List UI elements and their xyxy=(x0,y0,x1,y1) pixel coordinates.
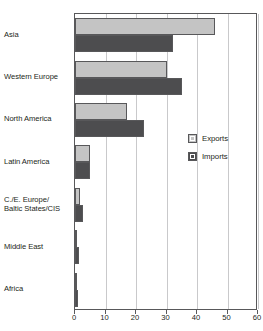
x-tick-label-30: 30 xyxy=(161,313,169,322)
bar-imports xyxy=(75,35,173,52)
x-tick-label-60: 60 xyxy=(253,313,261,322)
y-axis-label-line: Asia xyxy=(4,30,74,39)
x-tick-label-0: 0 xyxy=(72,313,76,322)
bar-group xyxy=(75,56,256,98)
bar-exports xyxy=(75,103,127,120)
bar-exports xyxy=(75,188,80,205)
bar-imports xyxy=(75,290,78,307)
x-tick-label-50: 50 xyxy=(222,313,230,322)
bar-exports xyxy=(75,273,77,290)
legend-label: Imports xyxy=(202,152,228,161)
y-axis-label-line: Africa xyxy=(4,284,74,293)
bar-imports xyxy=(75,205,83,222)
x-axis-tick-labels: 0102030405060 xyxy=(74,313,257,327)
x-tick-label-20: 20 xyxy=(131,313,139,322)
bar-exports xyxy=(75,145,90,162)
y-axis-category-labels: AsiaWestern EuropeNorth AmericaLatin Ame… xyxy=(4,13,72,310)
x-tick-label-40: 40 xyxy=(192,313,200,322)
y-axis-label-line: Latin America xyxy=(4,157,74,166)
y-axis-label: Asia xyxy=(4,30,74,39)
bar-imports xyxy=(75,162,90,179)
y-axis-label: North America xyxy=(4,114,74,123)
bar-imports xyxy=(75,78,182,95)
bar-chart: AsiaWestern EuropeNorth AmericaLatin Ame… xyxy=(0,0,263,331)
y-axis-label-line: North America xyxy=(4,114,74,123)
bar-group xyxy=(75,269,256,311)
legend-label: Exports xyxy=(202,134,228,143)
bar-exports xyxy=(75,230,77,247)
y-axis-label-line: Middle East xyxy=(4,242,74,251)
y-axis-label: C./E. Europe/Baltic States/CIS xyxy=(4,195,74,214)
bar-group xyxy=(75,184,256,226)
bar-group xyxy=(75,14,256,56)
y-axis-label: Middle East xyxy=(4,242,74,251)
legend-item-exports[interactable]: Exports xyxy=(188,131,254,146)
bar-imports xyxy=(75,120,144,137)
bar-exports xyxy=(75,18,215,35)
chart-legend: ExportsImports xyxy=(188,131,254,167)
y-axis-label: Western Europe xyxy=(4,72,74,81)
bar-group xyxy=(75,226,256,268)
legend-item-imports[interactable]: Imports xyxy=(188,149,254,164)
y-axis-label: Africa xyxy=(4,284,74,293)
plot-area: ExportsImports xyxy=(74,13,257,310)
x-tick-label-10: 10 xyxy=(100,313,108,322)
y-axis-label: Latin America xyxy=(4,157,74,166)
exports-swatch xyxy=(188,134,197,143)
bar-imports xyxy=(75,247,79,264)
y-axis-label-line: C./E. Europe/ xyxy=(4,195,74,204)
bar-exports xyxy=(75,61,167,78)
y-axis-label-line: Baltic States/CIS xyxy=(4,204,74,213)
y-axis-label-line: Western Europe xyxy=(4,72,74,81)
gridline-60 xyxy=(258,14,259,309)
imports-swatch xyxy=(188,152,197,161)
